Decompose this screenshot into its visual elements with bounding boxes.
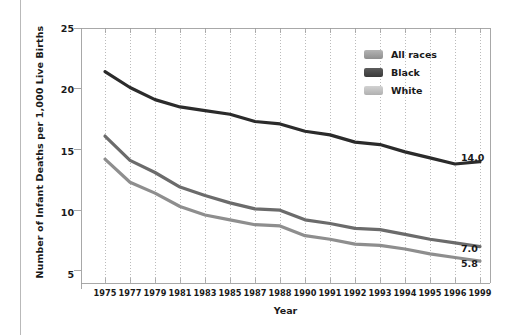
chart-legend: All races Black White	[364, 46, 437, 100]
infant-mortality-line-chart: Number of Infant Deaths per 1,000 Live B…	[0, 0, 506, 335]
legend-item-all-races: All races	[364, 46, 437, 62]
legend-item-black: Black	[364, 64, 437, 80]
data-series	[105, 72, 480, 261]
legend-label-white: White	[391, 85, 422, 96]
end-label-all-races: 7.0	[461, 243, 478, 254]
legend-label-black: Black	[391, 67, 420, 78]
legend-swatch-black	[364, 68, 383, 77]
end-label-white: 5.8	[461, 258, 478, 269]
legend-label-all-races: All races	[391, 49, 437, 60]
legend-swatch-white	[364, 86, 383, 95]
legend-item-white: White	[364, 82, 437, 98]
end-label-black: 14.0	[461, 152, 484, 163]
legend-swatch-all-races	[364, 50, 383, 59]
